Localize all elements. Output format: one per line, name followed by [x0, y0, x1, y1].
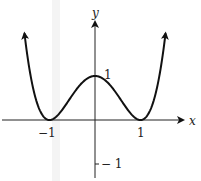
- plot-area: y x −1 1 1 − 1: [0, 0, 201, 181]
- x-tick-label-neg1: −1: [38, 126, 56, 140]
- y-axis-label: y: [91, 6, 99, 20]
- y-tick-label-1: 1: [104, 68, 112, 82]
- x-axis-label: x: [189, 114, 196, 128]
- x-tick-label-1: 1: [137, 126, 145, 140]
- y-tick-label-neg1: − 1: [101, 157, 123, 171]
